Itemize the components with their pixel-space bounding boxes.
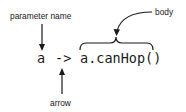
curly-brace-icon: [80, 37, 153, 50]
down-arrow-icon: [39, 24, 45, 51]
annotation-graphics: [0, 0, 186, 112]
curved-arrow-icon: [114, 12, 153, 36]
up-arrow-icon: [59, 68, 65, 94]
